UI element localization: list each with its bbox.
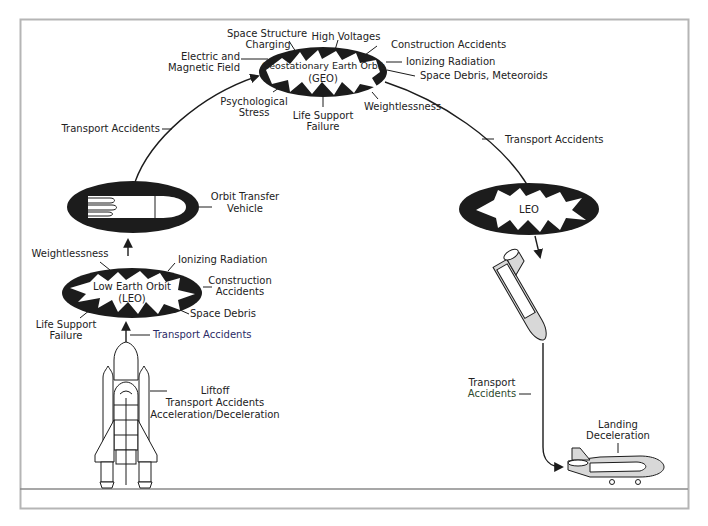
transfer-right-label: Transport Accidents — [504, 134, 604, 145]
leo-right-name: LEO — [519, 204, 539, 215]
transfer-left-label: Transport Accidents — [60, 123, 160, 134]
geo-hazard-electric-field-2: Magnetic Field — [168, 62, 240, 73]
leo-left-ascent-label: Transport Accidents — [152, 329, 252, 340]
geo-hazard-life-support-2: Failure — [307, 121, 340, 132]
space-shuttle-icon — [95, 342, 157, 488]
landing-label-2: Deceleration — [586, 430, 650, 441]
leo-left-hazard-space-debris: Space Debris — [190, 308, 256, 319]
orbit-transfer-vehicle-node — [67, 181, 199, 233]
descent-label: Transport — [468, 377, 516, 388]
leo-left-hazard-weightlessness: Weightlessness — [31, 248, 108, 259]
leo-left-hazard-construction-2: Accidents — [216, 286, 264, 297]
geo-hazard-psychological-stress-2: Stress — [239, 107, 270, 118]
leo-left-hazard-ionizing-radiation: Ionizing Radiation — [178, 254, 267, 265]
launch-transport-accidents: Transport Accidents — [165, 397, 265, 408]
geo-name-line1: Geostationary Earth Orbit — [262, 60, 385, 71]
launch-liftoff: Liftoff — [201, 385, 231, 396]
geo-hazard-high-voltages: High Voltages — [312, 31, 381, 42]
leo-left-hazard-life-support: Life Support — [36, 319, 97, 330]
launch-acceleration-deceleration: Acceleration/Deceleration — [150, 409, 279, 420]
leo-left-name-2: (LEO) — [118, 293, 146, 304]
geo-hazard-life-support: Life Support — [293, 110, 354, 121]
otv-label: Orbit Transfer — [211, 191, 280, 202]
landing-label: Landing — [598, 419, 638, 430]
geo-hazard-space-debris: Space Debris, Meteoroids — [420, 70, 548, 81]
geo-hazard-space-structure-charging: Space Structure — [227, 28, 307, 39]
leo-left-name: Low Earth Orbit — [93, 281, 171, 292]
geo-hazard-space-structure-charging-2: Charging — [245, 39, 290, 50]
descending-orbiter-icon — [490, 247, 563, 343]
geo-hazard-electric-field: Electric and — [181, 51, 240, 62]
geo-hazard-weightlessness: Weightlessness — [364, 101, 441, 112]
leo-right-node: LEO — [459, 183, 599, 235]
otv-label-2: Vehicle — [227, 203, 263, 214]
descent-label-2: Accidents — [468, 388, 516, 399]
leo-left-hazard-life-support-2: Failure — [50, 330, 83, 341]
geo-orbit-node: Geostationary Earth Orbit (GEO) — [259, 47, 387, 97]
geo-hazard-construction-accidents: Construction Accidents — [391, 39, 506, 50]
geo-hazard-ionizing-radiation: Ionizing Radiation — [406, 56, 495, 67]
geo-name-line2: (GEO) — [308, 73, 338, 84]
geo-hazard-psychological-stress: Psychological — [220, 96, 287, 107]
arrow-leo-to-orbiter — [535, 236, 540, 257]
descent-path — [543, 343, 562, 467]
diagram-canvas: Geostationary Earth Orbit (GEO) Space St… — [0, 0, 708, 526]
landed-orbiter-icon — [568, 448, 664, 485]
leo-left-hazard-construction: Construction — [208, 275, 272, 286]
